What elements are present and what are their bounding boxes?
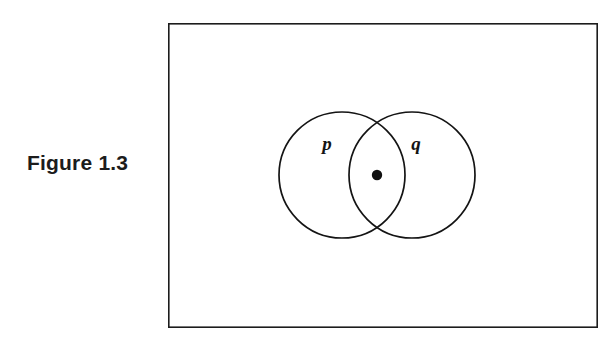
venn-diagram-svg: p q bbox=[168, 23, 598, 328]
set-label-q: q bbox=[411, 133, 421, 154]
universal-set-rectangle bbox=[169, 24, 597, 327]
figure-caption: Figure 1.3 bbox=[27, 148, 162, 178]
figure-container: Figure 1.3 p q bbox=[0, 0, 616, 347]
intersection-point-marker bbox=[372, 170, 382, 180]
set-label-p: p bbox=[320, 133, 332, 154]
venn-diagram: p q bbox=[168, 23, 598, 328]
